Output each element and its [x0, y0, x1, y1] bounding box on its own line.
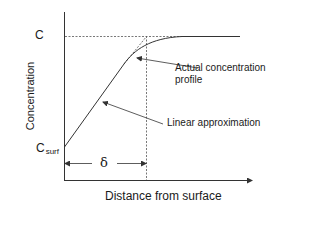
- delta-label: δ: [100, 156, 108, 169]
- csurf-label: Csurf: [36, 142, 58, 154]
- actual-profile-curve: [65, 37, 241, 148]
- c-label: C: [35, 29, 44, 41]
- x-axis-label: Distance from surface: [105, 190, 222, 202]
- csurf-main: C: [36, 141, 45, 155]
- actual-profile-label: Actual concentration profile: [175, 62, 275, 86]
- csurf-subscript: surf: [46, 147, 59, 156]
- linear-pointer: [103, 102, 163, 124]
- y-axis-label: Concentration: [25, 62, 36, 131]
- linear-approximation-label: Linear approximation: [167, 118, 260, 128]
